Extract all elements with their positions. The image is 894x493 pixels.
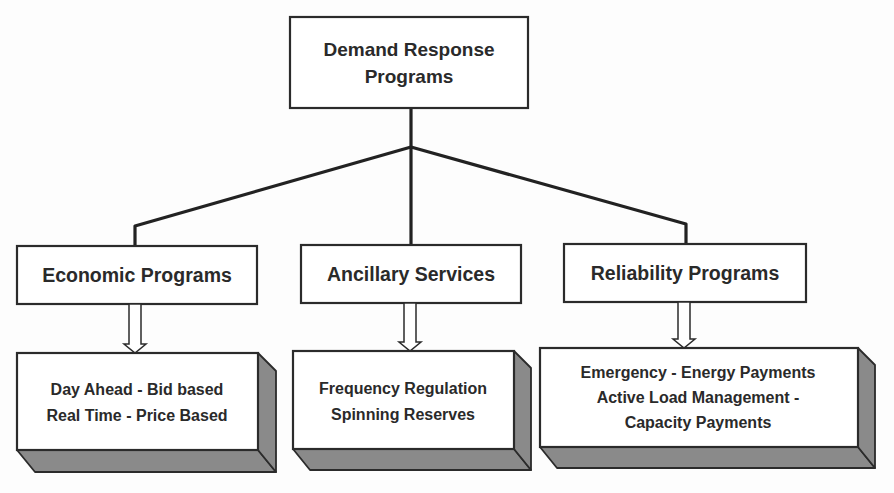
down-arrow-icon: [124, 304, 146, 353]
box-depth-bottom: [293, 449, 531, 470]
economic-detail-1: Day Ahead - Bid based: [51, 381, 224, 398]
economic-detail-2: Real Time - Price Based: [46, 407, 227, 424]
category-reliability-programs: Reliability Programs: [564, 244, 806, 348]
reliability-detail-2: Active Load Management -: [597, 389, 800, 406]
reliability-detail-3: Capacity Payments: [625, 414, 772, 431]
box-depth-right: [858, 348, 875, 468]
down-arrow-icon: [399, 303, 421, 351]
ancillary-services-details: Frequency Regulation Spinning Reserves: [293, 351, 531, 470]
connector-economic: [135, 147, 411, 246]
root-title-line-1: Demand Response: [323, 39, 494, 60]
reliability-programs-label: Reliability Programs: [591, 262, 780, 284]
ancillary-detail-2: Spinning Reserves: [331, 406, 475, 423]
ancillary-detail-1: Frequency Regulation: [319, 380, 487, 397]
box-depth-right: [514, 351, 531, 470]
root-box: [290, 17, 528, 108]
connector-reliability: [411, 147, 686, 244]
root-title-line-2: Programs: [365, 66, 454, 87]
reliability-detail-1: Emergency - Energy Payments: [581, 364, 816, 381]
economic-programs-details: Day Ahead - Bid based Real Time - Price …: [17, 353, 276, 472]
down-arrow-icon: [673, 302, 695, 348]
economic-details-box: [17, 353, 258, 450]
box-depth-bottom: [540, 447, 875, 468]
root-node: Demand Response Programs: [290, 17, 528, 108]
economic-programs-label: Economic Programs: [42, 264, 232, 286]
box-depth-bottom: [17, 450, 276, 472]
category-economic-programs: Economic Programs: [17, 246, 257, 353]
reliability-programs-details: Emergency - Energy Payments Active Load …: [540, 348, 875, 468]
demand-response-diagram: Demand Response Programs Economic Progra…: [0, 0, 894, 493]
tree-connectors: [135, 108, 686, 246]
box-depth-right: [258, 353, 276, 472]
ancillary-services-label: Ancillary Services: [327, 263, 495, 285]
category-ancillary-services: Ancillary Services: [301, 245, 521, 351]
ancillary-details-box: [293, 351, 514, 449]
